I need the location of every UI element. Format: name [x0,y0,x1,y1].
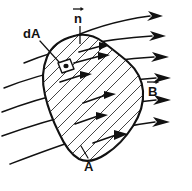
flux-diagram-figure: dA n B A [0,0,192,191]
label-area-element-text: dA [23,26,40,41]
label-area-element: dA [23,27,40,40]
label-normal-vector-text: n [74,11,82,26]
label-surface-area: A [84,160,93,173]
label-surface-area-text: A [84,159,93,174]
vector-arrow-n-icon [73,7,84,11]
hatched-surface-region [20,0,192,190]
label-normal-vector: n [74,12,82,25]
vector-arrow-b-icon [147,80,159,84]
label-field-vector: B [148,85,157,98]
label-field-vector-text: B [148,84,157,99]
